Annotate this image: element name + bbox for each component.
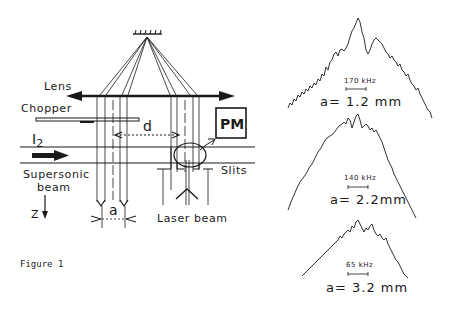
laser-beam-label: Laser beam (157, 212, 228, 225)
flow-arrow-icon (32, 150, 69, 161)
pm-label: PM (220, 116, 244, 132)
spectrum-3-scale: 65 kHz (346, 261, 373, 269)
supersonic-label-line2: beam (37, 181, 71, 194)
figure: Lens Chopper (0, 0, 458, 311)
spectrum-1-scale: 170 kHz (344, 77, 376, 85)
spectrum-1-a-label: a= 1.2 mm (320, 94, 402, 109)
spectrum-3-trace (302, 220, 408, 278)
spectrum-3: 65 kHz a= 3.2 mm (302, 220, 408, 295)
mirror-icon (133, 30, 162, 34)
spectrum-2: 140 kHz a= 2.2mm (288, 114, 416, 218)
figure-caption: Figure 1 (20, 259, 63, 269)
spectrum-1: 170 kHz a= 1.2 mm (288, 18, 432, 118)
signal-arrow (200, 139, 215, 150)
spectrum-3-a-label: a= 3.2 mm (326, 280, 408, 295)
chopper-label: Chopper (21, 102, 72, 115)
z-label: Z (31, 208, 39, 221)
supersonic-label-line1: Supersonic (23, 168, 90, 181)
spectrum-2-scale: 140 kHz (344, 174, 376, 182)
spectrum-2-a-label: a= 2.2mm (330, 192, 407, 207)
slits-label: Slits (221, 164, 247, 177)
left-beams (97, 96, 127, 202)
light-rays (100, 37, 197, 95)
photomultiplier-box: PM (216, 108, 246, 138)
laser-up-arrow-icon (176, 189, 198, 199)
spectra-panel: 170 kHz a= 1.2 mm 140 kHz a= 2.2mm 65 kH… (288, 18, 432, 295)
apparatus-diagram: Lens Chopper (20, 30, 255, 269)
lens-label: Lens (44, 80, 72, 93)
lens-arrow (66, 91, 235, 101)
d-label: d (143, 118, 152, 134)
a-label: a (109, 202, 118, 218)
chopper (36, 118, 139, 123)
z-axis-arrow-icon (42, 195, 48, 219)
